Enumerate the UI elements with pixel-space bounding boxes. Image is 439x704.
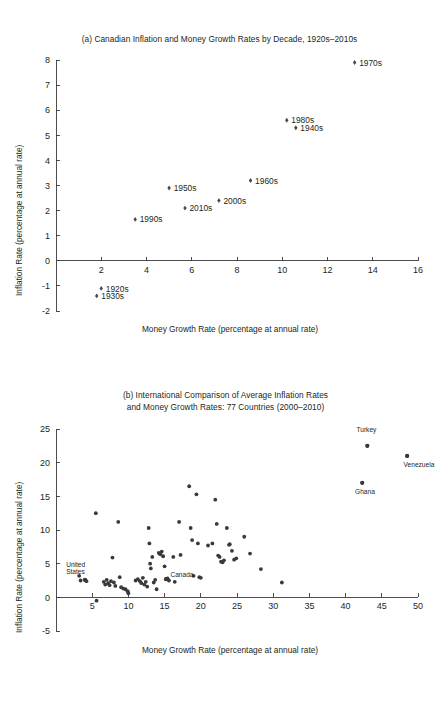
data-point — [147, 526, 151, 530]
data-point — [218, 555, 222, 559]
x-axis-tick-label: 15 — [160, 601, 170, 611]
y-axis-tick-label: -5 — [42, 626, 50, 636]
data-point: 1990s — [133, 214, 162, 224]
x-axis-tick-label: 14 — [368, 264, 378, 274]
data-point — [108, 583, 112, 587]
data-point-label: 1950s — [174, 183, 197, 193]
data-point — [153, 578, 157, 582]
x-axis-tick-label: 2 — [99, 264, 104, 274]
annotation-label: States — [66, 568, 85, 575]
data-point — [187, 484, 191, 488]
data-point — [105, 578, 109, 582]
x-axis-tick-label: 40 — [341, 601, 351, 611]
data-point — [95, 599, 99, 603]
data-point — [259, 567, 263, 571]
panel-a-x-axis-title: Money Growth Rate (percentage at annual … — [60, 324, 400, 334]
data-point — [149, 566, 153, 570]
x-axis-tick-label: 12 — [322, 264, 332, 274]
data-point — [222, 558, 226, 562]
y-axis-tick-label: 8 — [45, 55, 50, 65]
data-point — [195, 492, 199, 496]
y-axis-tick-label: 5 — [45, 130, 50, 140]
data-point — [225, 526, 229, 530]
panel-b-y-axis-title: Inflation Rate (percentage at annual rat… — [14, 482, 24, 633]
panel-b-title-line1: (b) International Comparison of Average … — [15, 390, 425, 402]
data-point — [206, 544, 210, 548]
x-axis-tick-label: 16 — [413, 264, 423, 274]
y-axis-tick-label: 2 — [45, 205, 50, 215]
data-point — [173, 580, 177, 584]
annotation-label: Canada — [170, 571, 193, 578]
data-point — [79, 579, 83, 583]
data-point — [116, 520, 120, 524]
annotation-label: United — [66, 561, 85, 568]
data-point — [145, 585, 149, 589]
y-axis-tick-label: 0 — [45, 593, 50, 603]
annotated-data-point: Venezuela — [404, 454, 435, 468]
data-point — [161, 554, 165, 558]
y-axis-tick-label: 5 — [45, 559, 50, 569]
x-axis-tick-label: 10 — [123, 601, 133, 611]
data-point — [230, 549, 234, 553]
data-point: 2010s — [183, 203, 212, 213]
data-point — [177, 520, 181, 524]
data-point — [405, 454, 409, 458]
data-point-label: 2000s — [223, 195, 246, 205]
annotated-data-point: UnitedStates — [66, 561, 87, 582]
annotation-label: Ghana — [355, 488, 375, 495]
data-point — [210, 542, 214, 546]
data-point: 1960s — [249, 175, 278, 185]
data-point — [365, 444, 369, 448]
diamond-marker — [294, 125, 297, 130]
y-axis-tick-label: 6 — [45, 105, 50, 115]
data-point — [94, 511, 98, 515]
data-point — [147, 542, 151, 546]
panel-a-y-axis-title: Inflation Rate (percentage at annual rat… — [14, 144, 24, 295]
x-axis-tick-label: 8 — [234, 264, 239, 274]
panel-b-svg: -505101520255101520253035404550TurkeyVen… — [0, 413, 439, 668]
y-axis-tick-label: 25 — [40, 424, 50, 434]
data-point-label: 1970s — [359, 57, 382, 67]
data-point — [190, 538, 194, 542]
data-point — [150, 555, 154, 559]
x-axis-tick-label: 10 — [277, 264, 287, 274]
data-point: 1970s — [353, 57, 382, 67]
y-axis-tick-label: 20 — [40, 458, 50, 468]
diamond-marker — [249, 178, 252, 183]
data-point — [163, 564, 167, 568]
panel-b: (b) International Comparison of Average … — [0, 390, 439, 704]
annotation-label: Venezuela — [404, 461, 435, 468]
data-point — [141, 576, 145, 580]
x-axis-tick-label: 6 — [189, 264, 194, 274]
x-axis-tick-label: 4 — [144, 264, 149, 274]
figure-root: (a) Canadian Inflation and Money Growth … — [0, 0, 439, 704]
y-axis-tick-label: -1 — [42, 281, 50, 291]
y-axis-tick-label: 3 — [45, 180, 50, 190]
x-axis-tick-label: 5 — [90, 601, 95, 611]
data-point-label: 1930s — [101, 291, 124, 301]
data-point: 1980s — [285, 115, 314, 125]
data-point — [83, 578, 87, 582]
data-point — [360, 481, 364, 485]
diamond-marker — [95, 293, 98, 298]
data-point — [111, 556, 115, 560]
panel-a: (a) Canadian Inflation and Money Growth … — [0, 34, 439, 394]
data-point — [196, 542, 200, 546]
x-axis-tick-label: 30 — [268, 601, 278, 611]
data-point — [113, 584, 117, 588]
x-axis-tick-label: 50 — [413, 601, 423, 611]
x-axis-tick-label: 35 — [304, 601, 314, 611]
y-axis-tick-label: 4 — [45, 155, 50, 165]
data-point — [280, 581, 284, 585]
diamond-marker — [285, 117, 288, 122]
data-point — [228, 542, 232, 546]
data-point — [213, 498, 217, 502]
data-point — [199, 576, 203, 580]
data-point-label: 1960s — [255, 175, 278, 185]
data-point — [155, 587, 159, 591]
y-axis-tick-label: 1 — [45, 230, 50, 240]
diamond-marker — [167, 185, 170, 190]
data-point: 2000s — [217, 195, 246, 205]
y-axis-tick-label: 0 — [45, 256, 50, 266]
data-point-label: 1980s — [291, 115, 314, 125]
